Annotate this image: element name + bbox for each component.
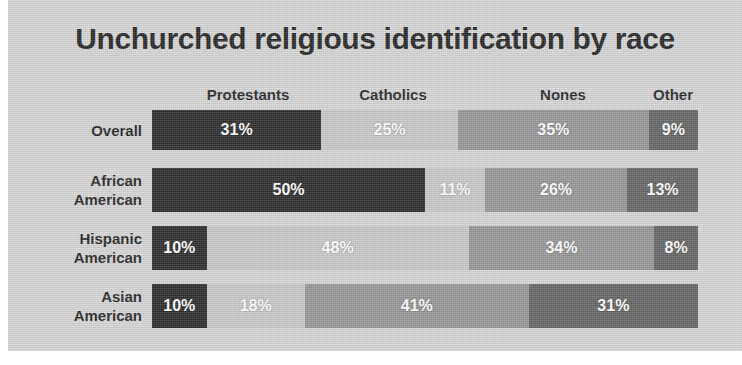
stacked-bar: 31%25%35%9% [152,110,698,150]
bar-segment-value: 31% [221,121,253,139]
chart-row: Overall31%25%35%9% [8,110,742,150]
bar-segment-protestants: 50% [152,168,425,212]
row-label-line: Asian [8,287,142,306]
row-label-asian-american: AsianAmerican [8,287,142,325]
chart-row: AsianAmerican10%18%41%31% [8,284,742,328]
bar-segment-other: 8% [654,226,698,270]
stacked-bar: 50%11%26%13% [152,168,698,212]
bar-segment-value: 31% [597,297,629,315]
bar-segment-catholics: 18% [207,284,305,328]
bar-segment-value: 25% [374,121,406,139]
bar-segment-value: 50% [272,181,304,199]
stacked-bar: 10%48%34%8% [152,226,698,270]
row-label-line: Overall [8,121,142,140]
bar-segment-other: 9% [649,110,698,150]
chart-row: AfricanAmerican50%11%26%13% [8,168,742,212]
bar-segment-value: 34% [545,239,577,257]
bar-segment-value: 10% [163,297,195,315]
chart-title: Unchurched religious identification by r… [8,22,742,56]
row-label-line: American [8,190,142,209]
bar-segment-nones: 26% [485,168,627,212]
bar-segment-value: 48% [322,239,354,257]
bar-segment-protestants: 31% [152,110,321,150]
stacked-bar: 10%18%41%31% [152,284,698,328]
legend-label-protestants: Protestants [207,86,290,103]
bar-segment-nones: 41% [305,284,529,328]
bar-segment-value: 35% [537,121,569,139]
bar-segment-value: 11% [439,181,470,199]
row-label-line: Hispanic [8,229,142,248]
bar-segment-catholics: 48% [207,226,469,270]
bar-segment-value: 13% [646,181,678,199]
legend-label-catholics: Catholics [359,86,427,103]
row-label-line: African [8,171,142,190]
row-label-overall: Overall [8,121,142,140]
bar-segment-other: 31% [529,284,698,328]
chart-legend: ProtestantsCatholicsNonesOther [152,86,698,108]
chart-figure: Unchurched religious identification by r… [8,0,742,351]
bar-segment-value: 8% [665,239,688,257]
row-label-line: American [8,306,142,325]
bar-segment-protestants: 10% [152,226,207,270]
row-label-hispanic-american: HispanicAmerican [8,229,142,267]
bar-segment-nones: 35% [458,110,649,150]
bar-segment-nones: 34% [469,226,655,270]
bar-segment-value: 10% [163,239,195,257]
row-label-line: American [8,248,142,267]
bar-segment-value: 18% [240,297,272,315]
bar-segment-protestants: 10% [152,284,207,328]
bar-segment-value: 41% [401,297,433,315]
bar-segment-catholics: 25% [321,110,458,150]
chart-row: HispanicAmerican10%48%34%8% [8,226,742,270]
bar-segment-value: 9% [662,121,685,139]
bar-segment-other: 13% [627,168,698,212]
bar-segment-value: 26% [540,181,572,199]
legend-label-other: Other [653,86,693,103]
row-label-african-american: AfricanAmerican [8,171,142,209]
legend-label-nones: Nones [540,86,586,103]
bar-segment-catholics: 11% [425,168,485,212]
